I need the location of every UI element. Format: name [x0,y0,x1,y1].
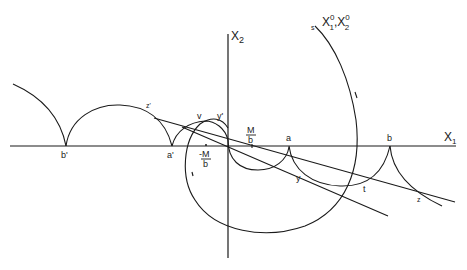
phase-plane-diagram: X2 X1 s X01,X02 b' a' -M b M b a b v y' … [0,0,467,270]
label-b: b [387,133,392,143]
spiral-trajectory [185,26,357,233]
label-M-den: b [248,135,253,145]
label-minus-M-den: b [203,159,208,169]
label-y-prime: y' [217,111,224,121]
tangent-line-z [154,118,455,202]
x2-axis-label: X2 [231,29,244,45]
x1-axis-label: X1 [444,130,457,146]
tick-minus-M-over-b [205,144,207,146]
start-point-label: X01,X02 [322,13,350,32]
label-minus-M-num: -M [199,149,210,159]
label-b-prime: b' [61,150,68,160]
label-z-prime: z' [146,102,151,109]
label-y: y [296,173,301,183]
label-t: t [363,184,366,194]
label-z: z [417,196,421,203]
start-marker-s: s [311,24,315,31]
label-M-num: M [247,125,255,135]
spiral-left-arrow [192,172,193,176]
label-a-prime: a' [167,150,174,160]
cycloid-arc-left [13,84,66,146]
cycloid-arc-b-to-z [390,146,442,206]
arc-origin-to-a [228,140,289,170]
label-a: a [286,133,291,143]
label-v: v [197,111,202,121]
spiral-direction-arrow [355,92,357,98]
cycloid-arch-bprime-aprime [66,105,172,146]
